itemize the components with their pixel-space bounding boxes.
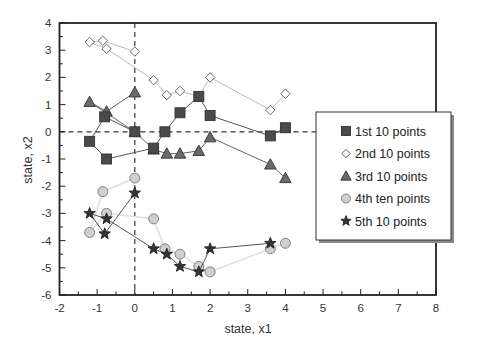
circle-marker xyxy=(85,227,95,237)
series-line xyxy=(90,178,286,272)
legend-label: 3rd 10 points xyxy=(355,170,427,184)
legend-label: 2nd 10 points xyxy=(355,147,430,161)
x-tick-labels: -2-1012345678 xyxy=(54,302,439,314)
series-line xyxy=(90,41,286,110)
triangle-marker xyxy=(265,159,277,169)
square-marker xyxy=(160,127,170,137)
y-tick-labels: 43210-1-2-3-4-5-6 xyxy=(41,17,52,301)
y-tick-label: 0 xyxy=(45,126,51,138)
diamond-marker xyxy=(175,86,184,95)
triangle-marker xyxy=(204,131,216,141)
x-tick-label: 7 xyxy=(395,302,401,314)
legend-label: 1st 10 points xyxy=(355,125,426,139)
square-marker xyxy=(205,110,215,120)
y-axis-label: state, x2 xyxy=(21,136,35,183)
x-tick-label: 5 xyxy=(320,302,326,314)
circle-marker xyxy=(98,187,108,197)
legend-item: 2nd 10 points xyxy=(342,147,430,161)
square-marker xyxy=(194,91,204,101)
series-3 xyxy=(84,87,291,183)
triangle-marker xyxy=(161,148,173,158)
legend-item: 4th ten points xyxy=(342,192,431,206)
circle-marker xyxy=(342,194,351,203)
legend-item: 1st 10 points xyxy=(342,125,426,139)
legend: 1st 10 points2nd 10 points3rd 10 points4… xyxy=(316,112,454,243)
circle-marker xyxy=(149,214,159,224)
y-tick-label: -6 xyxy=(41,289,51,301)
y-tick-label: -3 xyxy=(41,207,51,219)
square-marker xyxy=(265,131,275,141)
x-tick-label: 2 xyxy=(207,302,213,314)
y-tick-label: -2 xyxy=(41,180,51,192)
square-marker xyxy=(100,112,110,122)
x-axis-label: state, x1 xyxy=(224,322,271,336)
triangle-marker xyxy=(84,96,96,106)
series-2 xyxy=(85,36,290,115)
diamond-marker xyxy=(130,47,139,56)
y-tick-label: 4 xyxy=(45,17,52,29)
square-marker xyxy=(280,123,290,133)
circle-marker xyxy=(130,173,140,183)
x-tick-label: 6 xyxy=(357,302,363,314)
star-marker xyxy=(148,243,159,254)
star-marker xyxy=(99,228,110,239)
series-1 xyxy=(85,91,291,164)
circle-marker xyxy=(175,249,185,259)
square-marker xyxy=(342,127,351,136)
y-tick-label: 2 xyxy=(45,71,51,83)
square-marker xyxy=(102,154,112,164)
legend-label: 4th ten points xyxy=(355,192,430,206)
x-tick-label: 8 xyxy=(433,302,439,314)
legend-label: 5th 10 points xyxy=(355,215,427,229)
circle-marker xyxy=(280,238,290,248)
square-marker xyxy=(130,127,140,137)
x-tick-label: -1 xyxy=(92,302,102,314)
square-marker xyxy=(175,108,185,118)
x-tick-label: -2 xyxy=(54,302,64,314)
square-marker xyxy=(149,143,159,153)
diamond-marker xyxy=(85,37,94,46)
series-line xyxy=(90,96,286,159)
y-tick-label: -4 xyxy=(41,235,52,247)
series-line xyxy=(90,92,286,178)
square-marker xyxy=(85,136,95,146)
x-tick-label: 0 xyxy=(132,302,138,314)
diamond-marker xyxy=(205,73,214,82)
triangle-marker xyxy=(129,87,141,97)
series-layer xyxy=(84,36,291,277)
series-5 xyxy=(84,187,276,277)
y-tick-label: -1 xyxy=(41,153,51,165)
x-tick-label: 3 xyxy=(245,302,251,314)
x-tick-label: 1 xyxy=(169,302,175,314)
y-tick-label: -5 xyxy=(41,262,51,274)
y-tick-label: 1 xyxy=(45,99,51,111)
x-tick-label: 4 xyxy=(282,302,289,314)
y-tick-label: 3 xyxy=(45,44,51,56)
star-marker xyxy=(84,207,95,218)
scatter-chart: -2-1012345678 43210-1-2-3-4-5-6 state, x… xyxy=(0,0,478,349)
star-marker xyxy=(204,243,215,254)
circle-marker xyxy=(205,267,215,277)
